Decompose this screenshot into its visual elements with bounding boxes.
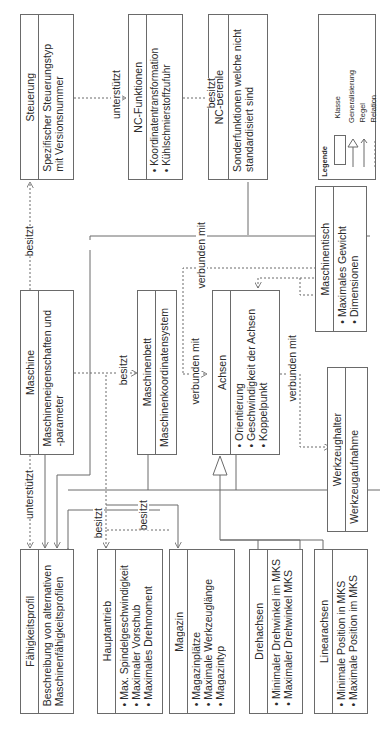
legend: Legende Klasse Generalisierung Regel Rel… — [318, 14, 376, 180]
class-header: Achsen — [213, 291, 231, 454]
relation-label: unterstützt — [24, 470, 35, 519]
class-attributes: Beschreibung von alternativen Maschinenf… — [39, 550, 73, 713]
class-name: Maschinenbett — [141, 338, 153, 406]
class-header: Hauptantrieb — [98, 550, 116, 713]
class-drehachsen[interactable]: Drehachsen • Minimaler Drehwinkel im MKS… — [249, 549, 303, 714]
class-nc-befehle[interactable]: NC-Befehle Sonderfunktionen welche nicht… — [208, 14, 268, 180]
relation-label: unterstützt — [111, 70, 122, 119]
class-header: Werkzeughalter — [328, 368, 346, 531]
relation-label: verbunden mit — [190, 338, 201, 405]
class-attributes: Maschinenkoordinatensystem — [156, 291, 176, 454]
relation-label: verbunden mit — [196, 222, 207, 289]
class-name: Werkzeughalter — [331, 413, 343, 486]
class-name: Magazin — [173, 612, 185, 652]
class-attributes: • Koordinatentransformation • Kühlschmie… — [147, 15, 182, 179]
relation-label: besitzt — [24, 226, 35, 256]
class-attributes: • Minimaler Drehwinkel im MKS • Maximale… — [268, 550, 302, 713]
class-name: Drehachsen — [253, 603, 265, 660]
class-name: Fähigkeitsprofil — [24, 596, 36, 667]
class-name: Steuerung — [24, 73, 36, 121]
class-attributes: • Orientierung • Geschwindigkeit der Ach… — [231, 291, 279, 454]
class-attributes: • Magazinplätze • Maximale Werkzeuglänge… — [188, 550, 234, 713]
class-header: Fähigkeitsprofil — [21, 550, 39, 713]
class-maschinenbett[interactable]: Maschinenbett Maschinenkoordinatensystem — [137, 290, 177, 455]
relation-label: besitzt — [138, 500, 149, 530]
class-name: Maschinentisch — [319, 223, 331, 295]
class-nc-funktionen[interactable]: NC-Funktionen • Koordinatentransformatio… — [128, 14, 183, 180]
class-maschine[interactable]: Maschine Maschineneigenschaften und -par… — [20, 290, 74, 455]
class-maschinentisch[interactable]: Maschinentisch • Maximales Gewicht • Dim… — [315, 186, 367, 332]
class-header: Drehachsen — [250, 550, 268, 713]
class-steuerung[interactable]: Steuerung Spezifischer Steuerungstyp mit… — [20, 14, 74, 180]
relation-label: verbunden mit — [287, 335, 298, 402]
class-werkzeughalter[interactable]: Werkzeughalter Werkzeugaufnahme — [327, 367, 368, 532]
class-attributes: Werkzeugaufnahme — [346, 368, 367, 531]
class-name: Maschine — [24, 350, 36, 395]
class-name: Hauptantrieb — [101, 601, 113, 661]
class-attributes: Maschineneigenschaften und -parameter — [39, 291, 73, 454]
class-header: Maschinentisch — [316, 187, 334, 331]
class-header: NC-Funktionen — [129, 15, 147, 179]
class-name: Achsen — [216, 355, 228, 390]
relation-label: besitzt — [118, 355, 129, 385]
class-attributes: • Minimale Position in MKS • Maximale Po… — [333, 550, 367, 713]
relation-label: besitzt — [93, 508, 104, 538]
class-header: Linearachsen — [315, 550, 333, 713]
class-attributes: Spezifischer Steuerungstyp mit Versionsn… — [39, 15, 73, 179]
class-linearachsen[interactable]: Linearachsen • Minimale Position in MKS … — [314, 549, 368, 714]
class-hauptantrieb[interactable]: Hauptantrieb • Max. Spindelgeschwindigke… — [97, 549, 163, 714]
class-name: Linearachsen — [318, 600, 330, 663]
class-attributes: • Maximales Gewicht • Dimensionen — [334, 187, 366, 331]
relation-label: besitzt — [206, 78, 217, 108]
class-header: Maschinenbett — [138, 291, 156, 454]
class-achsen[interactable]: Achsen • Orientierung • Geschwindigkeit … — [212, 290, 280, 455]
class-header: Magazin — [170, 550, 188, 713]
class-attributes: Sonderfunktionen welche nicht standardis… — [229, 15, 267, 179]
class-name: NC-Funktionen — [132, 62, 144, 133]
class-faehigkeitsprofil[interactable]: Fähigkeitsprofil Beschreibung von altern… — [20, 549, 74, 714]
class-attributes: • Max. Spindelgeschwindigkeit • Maximale… — [116, 550, 162, 713]
class-header: Maschine — [21, 291, 39, 454]
class-magazin[interactable]: Magazin • Magazinplätze • Maximale Werkz… — [169, 549, 235, 714]
class-header: Steuerung — [21, 15, 39, 179]
